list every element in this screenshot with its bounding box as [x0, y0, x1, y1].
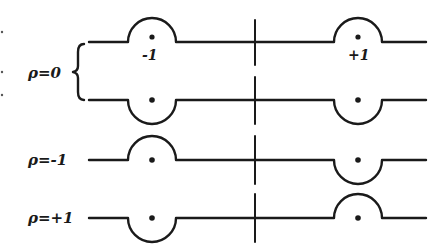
rho-plus1-label: ρ=+1 [27, 209, 74, 227]
row-rho-plus1: ρ=+1 [27, 194, 426, 242]
rho-state-diagram: -1 +1 ρ=0 ρ=-1 ρ=+1 [0, 0, 447, 248]
left-charge-label: -1 [142, 47, 158, 63]
row-rho0-upper: -1 +1 [89, 18, 426, 63]
left-charge-dot [149, 34, 154, 39]
right-charge-label: +1 [348, 47, 369, 63]
row-rho-minus1: ρ=-1 [27, 136, 426, 184]
rho0-label: ρ=0 [27, 64, 62, 82]
right-charge-dot [355, 34, 360, 39]
row-rho0-lower [89, 97, 426, 124]
rho0-group-label: ρ=0 [27, 44, 84, 100]
edge-marks [1, 31, 3, 96]
rho-minus1-label: ρ=-1 [27, 151, 67, 169]
